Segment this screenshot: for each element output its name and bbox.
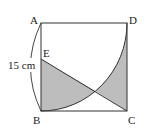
- label-d: D: [129, 14, 137, 26]
- label-e: E: [43, 47, 50, 59]
- dimension-label: 15 cm: [8, 59, 36, 71]
- label-a: A: [30, 14, 38, 26]
- shaded-region-left: [41, 59, 96, 111]
- geometry-diagram: A D E B C 15 cm: [0, 0, 147, 129]
- shaded-region-right: [96, 23, 128, 111]
- label-b: B: [33, 114, 40, 126]
- label-c: C: [128, 114, 135, 126]
